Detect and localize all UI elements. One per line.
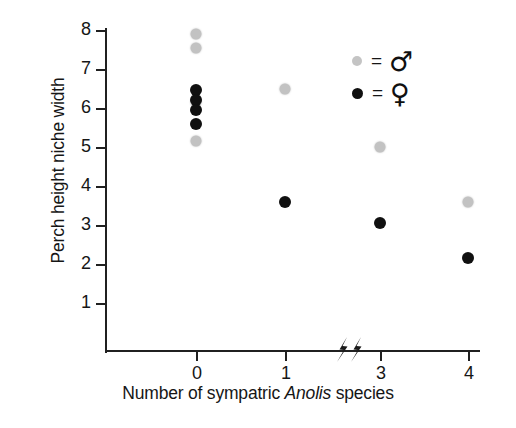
legend-row-male: =♂ [352,45,502,77]
legend-row-female: =♀ [352,77,502,109]
x-axis-break-icon [327,332,373,366]
x-axis-line [105,350,480,352]
data-point-female-5 [374,217,386,229]
legend-marker-male-icon [352,56,362,66]
x-axis-title-genus: Anolis [285,383,331,403]
y-tick-label-1: 1 [51,291,91,313]
data-point-male-1 [191,42,202,53]
data-point-male-0 [191,28,202,39]
y-tick-4: 4 [96,186,105,188]
legend-equals-sign: = [372,82,383,104]
mars-symbol-icon: ♂ [389,48,413,75]
y-tick-label-3: 3 [51,213,91,235]
data-point-female-6 [462,252,474,264]
data-point-male-4 [280,83,291,94]
x-tick-label-0: 0 [177,363,217,384]
legend-marker-female-icon [352,88,363,99]
y-tick-5: 5 [96,147,105,149]
x-tick-label-1: 1 [266,363,306,384]
y-tick-label-4: 4 [51,174,91,196]
y-tick-label-7: 7 [51,57,91,79]
x-tick-1 [285,352,287,361]
legend: =♂=♀ [352,45,502,109]
y-tick-label-8: 8 [51,18,91,40]
y-axis-line [105,28,107,353]
x-axis-title-after: species [331,383,394,403]
data-point-female-3 [190,118,202,130]
x-axis-title-before: Number of sympatric [122,383,284,403]
legend-equals-sign: = [371,50,382,72]
x-tick-0 [196,352,198,361]
data-point-male-3 [191,136,202,147]
y-tick-1: 1 [96,303,105,305]
x-tick-label-3: 3 [361,363,401,384]
data-point-female-4 [279,196,291,208]
data-point-male-5 [375,142,386,153]
y-tick-label-2: 2 [51,252,91,274]
x-tick-label-4: 4 [449,363,489,384]
y-tick-6: 6 [96,108,105,110]
data-point-female-2 [190,104,202,116]
y-tick-7: 7 [96,69,105,71]
venus-symbol-icon: ♀ [390,80,410,107]
y-tick-3: 3 [96,225,105,227]
x-tick-3 [380,352,382,361]
y-tick-2: 2 [96,264,105,266]
y-tick-label-5: 5 [51,135,91,157]
y-tick-label-6: 6 [51,96,91,118]
y-tick-8: 8 [96,30,105,32]
x-axis-title: Number of sympatric Anolis species [0,383,516,404]
data-point-male-6 [463,196,474,207]
x-tick-4 [468,352,470,361]
scatter-plot-figure: Perch height niche width 87654321 0134 =… [0,0,516,428]
